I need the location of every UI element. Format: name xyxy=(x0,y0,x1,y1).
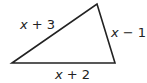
triangle-diagram: x + 3 x − 1 x + 2 xyxy=(0,0,147,83)
side-label-bottom: x + 2 xyxy=(54,67,90,82)
triangle-shape xyxy=(12,4,115,63)
side-label-right: x − 1 xyxy=(110,25,146,40)
side-label-left: x + 3 xyxy=(19,17,55,32)
